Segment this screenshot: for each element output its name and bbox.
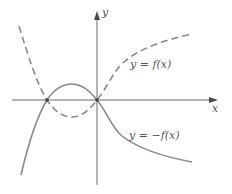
intersection-point-left [45, 98, 49, 102]
y-axis-label: y [102, 7, 108, 18]
diagram-canvas [0, 0, 232, 194]
curve-neg-f-label: y = −f(x) [129, 130, 180, 141]
curve-f-label: y = f(x) [130, 59, 171, 70]
y-axis-arrow-icon [94, 11, 100, 20]
x-axis-label: x [212, 103, 218, 114]
reflection-diagram: y x y = f(x) y = −f(x) [0, 0, 232, 194]
intersection-point-origin [95, 98, 99, 102]
